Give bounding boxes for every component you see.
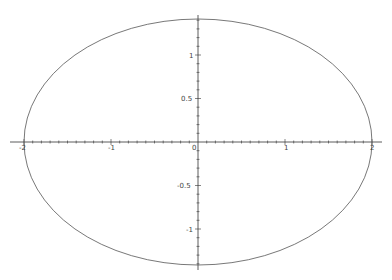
y-tick-label: 1 <box>189 52 193 60</box>
x-tick-label: 0 <box>192 144 196 152</box>
ellipse-plot: -2 -1 0 1 2 1 0.5 -0.5 -1 <box>0 0 392 280</box>
x-tick-label: -2 <box>19 144 26 152</box>
x-tick-label: 2 <box>370 144 374 152</box>
y-tick-label: 0.5 <box>181 95 192 103</box>
x-tick-label: 1 <box>284 144 288 152</box>
y-tick-label: -1 <box>186 226 193 234</box>
y-tick-label: -0.5 <box>177 182 191 190</box>
x-tick-label: -1 <box>108 144 115 152</box>
